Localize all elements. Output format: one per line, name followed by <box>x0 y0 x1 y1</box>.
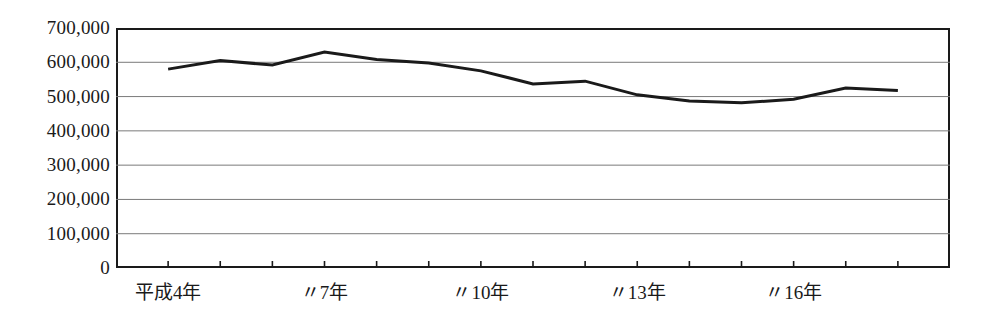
x-axis-ticks <box>168 261 898 268</box>
y-axis-tick-label: 400,000 <box>2 121 110 140</box>
y-axis-tick-label: 600,000 <box>2 52 110 71</box>
x-axis-tick-label: 〃7年 <box>301 282 349 304</box>
x-axis-tick-label: 〃13年 <box>609 282 666 304</box>
gridlines <box>116 62 950 233</box>
y-axis-tick-label: 200,000 <box>2 189 110 208</box>
x-axis-tick-label: 〃10年 <box>452 282 509 304</box>
y-axis-tick-label: 300,000 <box>2 155 110 174</box>
y-axis-tick-label: 500,000 <box>2 87 110 106</box>
x-axis-tick-label: 平成4年 <box>135 282 202 304</box>
data-series-line <box>168 52 898 103</box>
y-axis-tick-label: 700,000 <box>2 18 110 37</box>
y-axis-tick-label: 100,000 <box>2 224 110 243</box>
line-chart: 700,000600,000500,000400,000300,000200,0… <box>0 0 986 333</box>
plot-svg <box>116 28 950 268</box>
y-axis-tick-label: 0 <box>2 258 110 277</box>
x-axis-tick-labels: 平成4年〃7年〃10年〃13年〃16年 <box>0 282 986 322</box>
x-axis-tick-label: 〃16年 <box>765 282 822 304</box>
